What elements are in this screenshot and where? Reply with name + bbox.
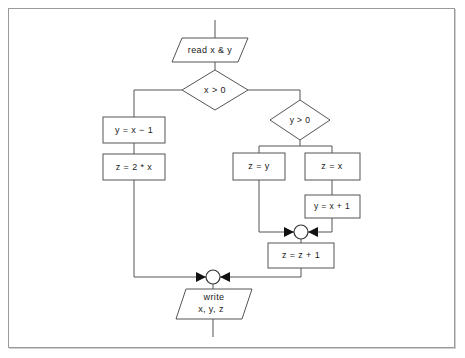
edge-z-plus-to-merge-outer bbox=[220, 268, 301, 277]
node-process-z-eq-y[interactable]: z = y bbox=[233, 153, 285, 180]
edge-y-plus-to-merge-inner bbox=[308, 218, 332, 232]
edge-decision-x-left-branch bbox=[134, 90, 182, 117]
edge-decision-x-right-branch bbox=[248, 90, 300, 100]
node-merge-connector-inner[interactable] bbox=[294, 225, 308, 239]
node-read-input[interactable]: read x & y bbox=[172, 38, 248, 62]
node-label-z-eq-y: z = y bbox=[248, 161, 269, 171]
node-decision-y-gt-0[interactable]: y > 0 bbox=[270, 100, 330, 140]
node-label-write-line2: x, y, z bbox=[198, 304, 224, 314]
arrowhead-into-merge-inner-left bbox=[284, 227, 294, 237]
node-label-y-eq-x-minus-1: y = x − 1 bbox=[115, 125, 153, 135]
node-label-y-eq-x-plus-1: y = x + 1 bbox=[314, 201, 350, 211]
arrowhead-into-merge-inner-right bbox=[308, 227, 318, 237]
node-label-write-line1: write bbox=[202, 292, 224, 302]
edge-z-y-to-merge-inner bbox=[259, 180, 294, 232]
node-process-y-eq-x-minus-1[interactable]: y = x − 1 bbox=[103, 117, 165, 143]
node-label-z-eq-2x: z = 2 * x bbox=[116, 162, 152, 172]
node-label-x-gt-0: x > 0 bbox=[204, 85, 226, 95]
circle-shape bbox=[294, 225, 308, 239]
arrowhead-into-merge-outer-left bbox=[196, 272, 206, 282]
flowchart-page: read x & y x > 0 y = x − 1 z = 2 * x y >… bbox=[0, 0, 465, 358]
edge-z-2x-to-merge-outer bbox=[134, 180, 206, 277]
node-process-z-eq-x[interactable]: z = x bbox=[305, 153, 360, 180]
node-label-z-eq-z-plus-1: z = z + 1 bbox=[282, 250, 320, 260]
node-merge-connector-outer[interactable] bbox=[206, 270, 220, 284]
node-process-z-eq-2x[interactable]: z = 2 * x bbox=[103, 154, 165, 180]
node-label-z-eq-x: z = x bbox=[321, 161, 342, 171]
edge-decision-y-right-branch bbox=[300, 146, 332, 153]
arrowhead-into-merge-outer-right bbox=[220, 272, 230, 282]
edge-decision-y-left-branch bbox=[259, 140, 300, 153]
node-write-output[interactable]: write x, y, z bbox=[176, 289, 252, 319]
node-process-y-eq-x-plus-1[interactable]: y = x + 1 bbox=[305, 195, 360, 218]
node-decision-x-gt-0[interactable]: x > 0 bbox=[182, 70, 248, 110]
node-label-y-gt-0: y > 0 bbox=[290, 115, 311, 125]
flowchart-diagram: read x & y x > 0 y = x − 1 z = 2 * x y >… bbox=[0, 0, 465, 358]
node-process-z-eq-z-plus-1[interactable]: z = z + 1 bbox=[268, 243, 334, 268]
circle-shape bbox=[206, 270, 220, 284]
node-label-read: read x & y bbox=[188, 45, 233, 55]
